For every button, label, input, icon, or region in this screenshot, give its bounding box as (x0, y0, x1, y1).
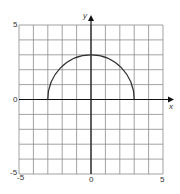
y-tick-zero: 0 (13, 96, 17, 104)
coordinate-plane (0, 0, 180, 194)
axes (19, 15, 174, 174)
x-tick-left: -5 (17, 174, 24, 182)
x-axis-label: x (169, 103, 173, 111)
x-tick-zero: 0 (89, 176, 93, 184)
y-axis-label: y (83, 12, 87, 20)
x-tick-right: 5 (160, 176, 164, 184)
y-tick-top: 5 (13, 21, 17, 29)
